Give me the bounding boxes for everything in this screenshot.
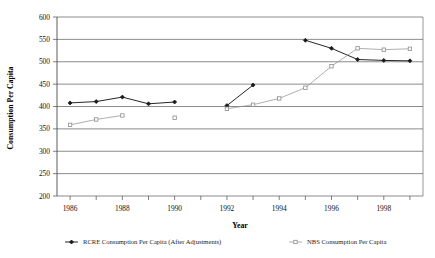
data-point-marker-square: [382, 48, 385, 51]
legend-group: RCRE Consumption Per Capita (After Adjus…: [65, 238, 386, 246]
series-line-segment: [96, 97, 122, 101]
y-tick-labels-group: 200250300350400450500550600: [39, 13, 50, 201]
series-line-segment: [70, 102, 96, 103]
data-point-marker-square: [251, 103, 254, 106]
data-point-marker-square: [68, 123, 71, 126]
x-tick-label: 1986: [63, 204, 78, 213]
x-tick-label: 1998: [376, 204, 391, 213]
data-point-marker-diamond: [94, 100, 98, 104]
series-line-segment: [227, 85, 253, 106]
data-point-marker-diamond: [408, 59, 412, 63]
series-line-segment: [122, 97, 148, 104]
data-point-marker-diamond: [356, 58, 360, 62]
series-line-segment: [96, 115, 122, 119]
y-axis-title: Consumption Per Capita: [6, 66, 15, 149]
series-line-segment: [332, 48, 358, 66]
series-line-segment: [279, 88, 305, 99]
series-line-segment: [253, 98, 279, 104]
series-line-segment: [358, 48, 384, 49]
series-line-segment: [384, 49, 410, 50]
data-point-marker-square: [225, 107, 228, 110]
legend-entry[interactable]: RCRE Consumption Per Capita (After Adjus…: [65, 238, 221, 246]
legend-label: RCRE Consumption Per Capita (After Adjus…: [83, 238, 221, 246]
data-point-marker-square: [356, 47, 359, 50]
series-line-segment: [70, 119, 96, 124]
legend-entry[interactable]: NBS Consumption Per Capita: [289, 238, 386, 245]
data-point-marker-square: [121, 114, 124, 117]
y-tick-label: 200: [39, 192, 50, 201]
x-tickmarks-group: [53, 17, 410, 200]
series-line-segment: [332, 48, 358, 59]
data-point-marker-diamond: [120, 95, 124, 99]
y-tick-label: 600: [39, 13, 50, 22]
series-line-segment: [305, 40, 331, 48]
data-point-marker-diamond: [147, 102, 151, 106]
y-tick-label: 500: [39, 57, 50, 66]
data-point-marker-diamond: [68, 101, 72, 105]
data-point-marker-diamond: [330, 46, 334, 50]
data-point-marker-square: [408, 47, 411, 50]
x-tick-label: 1990: [167, 204, 182, 213]
line-chart: 200250300350400450500550600 198619881990…: [0, 0, 435, 258]
data-point-marker-square: [95, 118, 98, 121]
chart-container: 200250300350400450500550600 198619881990…: [0, 0, 435, 258]
y-tick-label: 350: [39, 124, 50, 133]
data-point-marker-diamond: [173, 100, 177, 104]
series-line-segment: [305, 66, 331, 87]
x-tick-label: 1988: [115, 204, 130, 213]
series-line-segment: [149, 102, 175, 104]
data-series-group: [68, 38, 412, 126]
y-tick-label: 400: [39, 102, 50, 111]
legend-label: NBS Consumption Per Capita: [307, 238, 386, 245]
data-point-marker-square: [330, 65, 333, 68]
series-line-segment: [358, 60, 384, 61]
x-tick-label: 1994: [272, 204, 287, 213]
y-tick-label: 300: [39, 147, 50, 156]
y-tick-label: 550: [39, 35, 50, 44]
data-point-marker-square: [304, 86, 307, 89]
data-point-marker-diamond: [70, 240, 74, 244]
data-series: [68, 47, 411, 127]
data-point-marker-square: [173, 116, 176, 119]
x-tick-label: 1992: [220, 204, 235, 213]
y-tick-label: 450: [39, 80, 50, 89]
x-axis-title: Year: [232, 221, 248, 230]
x-tick-label: 1996: [324, 204, 339, 213]
data-point-marker-diamond: [303, 38, 307, 42]
x-tick-labels-group: 1986198819901992199419961998: [63, 204, 392, 213]
data-point-marker-square: [278, 97, 281, 100]
y-tick-label: 250: [39, 169, 50, 178]
data-point-marker-square: [294, 240, 297, 243]
